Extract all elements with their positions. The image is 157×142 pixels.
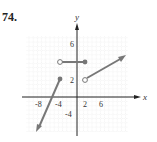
x-tick: -4 bbox=[55, 100, 62, 109]
x-tick: 2 bbox=[83, 100, 87, 109]
piecewise-graph: x y -8 -4 2 6 6 2 -4 bbox=[0, 0, 157, 142]
x-tick: -8 bbox=[35, 100, 42, 109]
x-axis-arrow-icon bbox=[134, 95, 141, 99]
closed-point bbox=[58, 77, 63, 82]
open-point bbox=[83, 78, 88, 83]
y-tick: 2 bbox=[70, 76, 74, 85]
x-tick: 6 bbox=[99, 100, 103, 109]
y-tick: 6 bbox=[70, 40, 74, 49]
y-tick: -4 bbox=[65, 110, 72, 119]
y-axis-arrow-icon bbox=[75, 23, 79, 30]
closed-point bbox=[83, 60, 88, 65]
y-axis-label: y bbox=[74, 12, 79, 22]
open-point bbox=[58, 60, 63, 65]
x-axis-label: x bbox=[142, 92, 147, 102]
